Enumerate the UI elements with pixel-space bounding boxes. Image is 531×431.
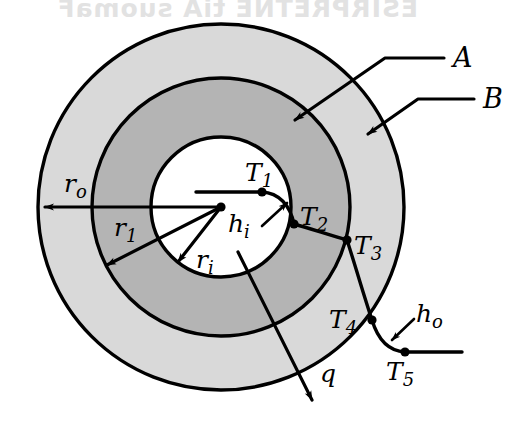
label-heat-flow: q [320,359,336,388]
label-temp-4-sub: 4 [345,317,357,338]
label-inner-convection-sub: i [244,221,250,242]
label-radius-inner-sub: i [208,257,214,278]
label-inner-convection-base: h [228,209,244,238]
label-temp-5: T5 [386,357,414,390]
label-material-B: B [482,83,503,114]
figure-root: ESIRPRETNE tiA suomaF noitcudnoC laidaR [0,0,531,431]
T3-dot [342,235,351,244]
T5-dot [400,347,409,356]
T4-dot [367,315,376,324]
diagram-canvas: A B q ro r1 ri hi ho T1 T2 [0,0,531,431]
label-temp-1-sub: 1 [262,170,273,191]
label-outer-convection: ho [416,299,443,332]
T2-dot [289,219,298,228]
label-outer-convection-sub: o [432,311,443,332]
outer-film-curve [372,320,405,352]
label-temp-5-sub: 5 [403,369,414,390]
label-temp-3-sub: 3 [371,243,382,264]
outer-convection-arrow [392,319,414,340]
label-radius-outer-sub: o [76,181,87,202]
label-outer-convection-base: h [416,299,432,328]
label-radius-mid-sub: 1 [126,225,137,246]
label-temp-2-sub: 2 [316,214,328,235]
center-dot [216,202,225,211]
label-material-A: A [450,42,473,73]
